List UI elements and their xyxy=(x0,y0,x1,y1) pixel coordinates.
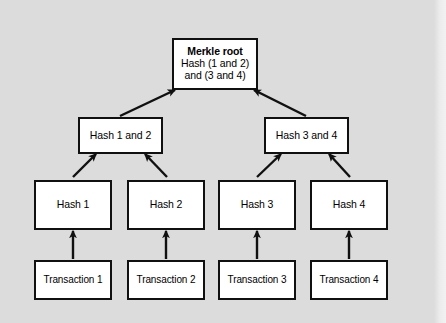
node-hash-4-label: Hash 4 xyxy=(333,199,366,211)
node-transaction-2[interactable]: Transaction 2 xyxy=(127,260,205,300)
node-transaction-1-label: Transaction 1 xyxy=(44,274,103,285)
node-hash-1-label: Hash 1 xyxy=(57,199,90,211)
node-transaction-1[interactable]: Transaction 1 xyxy=(34,260,112,300)
node-hash-4[interactable]: Hash 4 xyxy=(310,180,388,230)
node-transaction-3[interactable]: Transaction 3 xyxy=(218,260,296,300)
node-hash-3-label: Hash 3 xyxy=(241,199,274,211)
node-hash-3[interactable]: Hash 3 xyxy=(218,180,296,230)
node-transaction-4[interactable]: Transaction 4 xyxy=(310,260,388,300)
merkle-tree-diagram: Merkle root Hash (1 and 2) and (3 and 4)… xyxy=(0,0,446,323)
node-transaction-2-label: Transaction 2 xyxy=(137,274,196,285)
node-hash-3-and-4-label: Hash 3 and 4 xyxy=(276,130,337,142)
node-hash-3-and-4[interactable]: Hash 3 and 4 xyxy=(264,117,349,154)
node-hash-1-and-2-label: Hash 1 and 2 xyxy=(90,130,151,142)
node-hash-1-and-2[interactable]: Hash 1 and 2 xyxy=(78,117,163,154)
merkle-root-line-2: and (3 and 4) xyxy=(184,70,245,82)
node-merkle-root[interactable]: Merkle root Hash (1 and 2) and (3 and 4) xyxy=(172,38,258,90)
node-transaction-4-label: Transaction 4 xyxy=(320,274,379,285)
node-transaction-3-label: Transaction 3 xyxy=(228,274,287,285)
node-hash-2-label: Hash 2 xyxy=(150,199,183,211)
node-hash-2[interactable]: Hash 2 xyxy=(127,180,205,230)
node-hash-1[interactable]: Hash 1 xyxy=(34,180,112,230)
